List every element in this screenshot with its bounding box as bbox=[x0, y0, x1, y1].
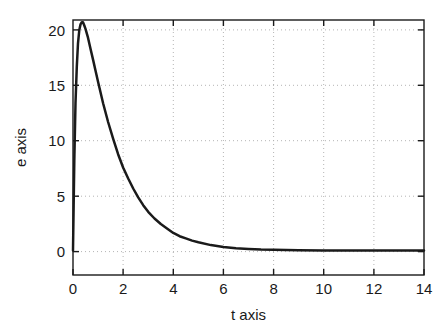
yticklabel-20: 20 bbox=[48, 22, 65, 39]
yticklabel-10: 10 bbox=[48, 132, 65, 149]
xticklabel-8: 8 bbox=[269, 280, 277, 297]
xticklabel-14: 14 bbox=[416, 280, 433, 297]
chart-page: 0 2 4 6 8 10 12 14 0 5 10 15 20 t axis e… bbox=[0, 0, 448, 330]
y-axis-title: e axis bbox=[12, 128, 29, 167]
x-axis-title: t axis bbox=[231, 306, 266, 323]
line-chart-svg: 0 2 4 6 8 10 12 14 0 5 10 15 20 t axis e… bbox=[0, 0, 448, 330]
xticklabel-4: 4 bbox=[169, 280, 177, 297]
yticklabel-0: 0 bbox=[57, 243, 65, 260]
xticklabel-10: 10 bbox=[315, 280, 332, 297]
xticklabel-12: 12 bbox=[366, 280, 383, 297]
yticklabel-5: 5 bbox=[57, 188, 65, 205]
plot-area-background bbox=[73, 20, 424, 275]
xticklabel-0: 0 bbox=[69, 280, 77, 297]
xticklabel-6: 6 bbox=[219, 280, 227, 297]
yticklabel-15: 15 bbox=[48, 77, 65, 94]
figure-container: 0 2 4 6 8 10 12 14 0 5 10 15 20 t axis e… bbox=[0, 0, 448, 330]
xticklabel-2: 2 bbox=[119, 280, 127, 297]
